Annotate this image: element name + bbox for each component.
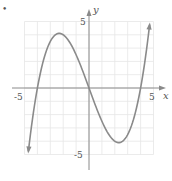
y-tick-min: -5 bbox=[74, 150, 83, 160]
y-axis-label: y bbox=[92, 4, 99, 15]
bullet-marker: • bbox=[2, 4, 7, 14]
y-tick-max: 5 bbox=[80, 17, 86, 27]
x-tick-min: -5 bbox=[14, 92, 23, 102]
x-tick-max: 5 bbox=[149, 92, 155, 102]
cubic-function-graph: • x y -5 5 5 -5 bbox=[0, 0, 172, 181]
x-axis-label: x bbox=[163, 90, 169, 101]
